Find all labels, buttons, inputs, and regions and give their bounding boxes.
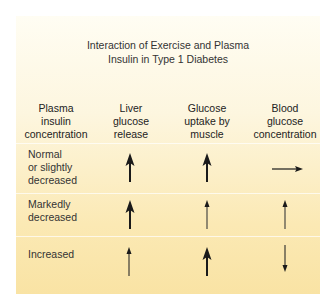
row-label-normal: Normal or slightly decreased bbox=[28, 148, 77, 187]
row-label-increased: Increased bbox=[28, 248, 74, 261]
header-glucose-uptake-muscle: Glucose uptake by muscle bbox=[162, 102, 252, 141]
row-divider bbox=[16, 193, 320, 194]
thick-up-arrow-icon bbox=[199, 152, 215, 184]
thick-up-arrow-icon bbox=[122, 199, 138, 231]
thin-down-arrow-icon bbox=[279, 244, 291, 274]
header-blood-glucose: Blood glucose concentration bbox=[240, 102, 330, 141]
thick-up-arrow-icon bbox=[199, 246, 215, 278]
row-divider bbox=[16, 236, 320, 237]
row-divider bbox=[16, 143, 320, 144]
right-arrow-icon bbox=[270, 163, 304, 175]
thin-up-arrow-icon bbox=[123, 246, 135, 278]
title-line-1: Interaction of Exercise and Plasma bbox=[16, 38, 320, 52]
diagram-title: Interaction of Exercise and Plasma Insul… bbox=[16, 38, 320, 66]
title-line-2: Insulin in Type 1 Diabetes bbox=[16, 52, 320, 66]
diagram-panel: Interaction of Exercise and Plasma Insul… bbox=[16, 16, 320, 294]
thin-up-arrow-icon bbox=[201, 199, 213, 231]
thick-up-arrow-icon bbox=[122, 152, 138, 184]
thin-up-arrow-icon bbox=[279, 199, 291, 231]
row-label-markedly-decreased: Markedly decreased bbox=[28, 198, 77, 224]
